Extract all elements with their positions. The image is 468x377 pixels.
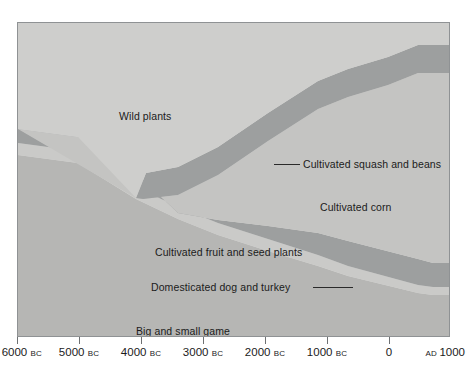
x-axis-era: BC <box>274 349 286 358</box>
x-axis-tick <box>203 337 204 344</box>
x-axis-tick-label: AD 1000 <box>425 347 465 359</box>
x-axis-era: BC <box>30 349 42 358</box>
x-axis-tick-label: 6000 BC <box>2 347 42 359</box>
leader-line-squash-and-beans <box>274 164 300 165</box>
x-axis-era: BC <box>88 349 100 358</box>
x-axis-tick <box>141 337 142 344</box>
x-axis-tick <box>79 337 80 344</box>
x-axis-era: BC <box>212 349 224 358</box>
x-axis-tick-label: 5000 BC <box>59 347 99 359</box>
figure: Wild plants Cultivated squash and beans … <box>0 0 468 377</box>
x-axis-tick-label: 2000 BC <box>245 347 285 359</box>
area-label-wild-plants: Wild plants <box>119 111 171 122</box>
x-axis-tick <box>17 337 18 344</box>
area-label-cultivated-squash-and-beans: Cultivated squash and beans <box>303 159 441 170</box>
x-axis-tick-label: 1000 BC <box>307 347 347 359</box>
x-axis-tick-label: 3000 BC <box>183 347 223 359</box>
x-axis-tick <box>389 337 390 344</box>
x-axis: 6000 BC5000 BC4000 BC3000 BC2000 BC1000 … <box>0 337 468 377</box>
area-label-cultivated-corn: Cultivated corn <box>320 202 392 213</box>
x-axis-tick-label: 0 <box>386 347 392 359</box>
x-axis-tick-label: 4000 BC <box>121 347 161 359</box>
x-axis-era: AD <box>425 349 439 358</box>
area-label-domesticated-dog-and-turkey: Domesticated dog and turkey <box>151 282 290 293</box>
x-axis-tick <box>265 337 266 344</box>
x-axis-era: BC <box>336 349 348 358</box>
area-label-cultivated-fruit-and-seed-plants: Cultivated fruit and seed plants <box>155 247 302 258</box>
area-label-big-and-small-game: Big and small game <box>136 326 230 337</box>
x-axis-era: BC <box>150 349 162 358</box>
leader-line-dog-and-turkey <box>313 287 353 288</box>
x-axis-tick <box>327 337 328 344</box>
chart-plot-area: Wild plants Cultivated squash and beans … <box>17 22 450 337</box>
